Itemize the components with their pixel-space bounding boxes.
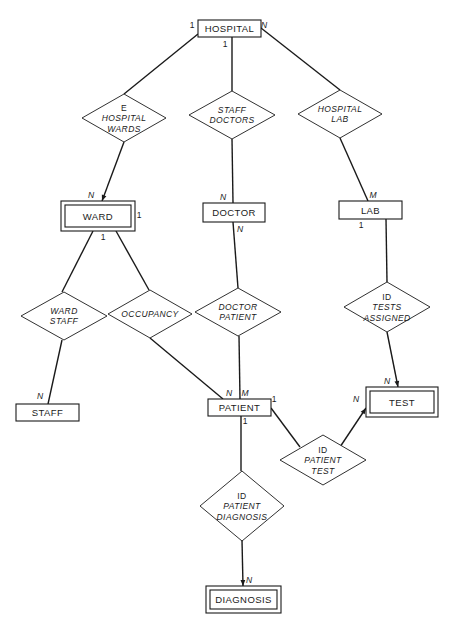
relationship-patient-diagnosis[interactable]: IDPATIENTDIAGNOSIS: [200, 471, 284, 541]
connector-line: [124, 34, 198, 94]
cardinality-label: 1: [272, 394, 277, 404]
entity-label: STAFF: [32, 407, 63, 418]
cardinality-label: N: [237, 224, 244, 234]
relationship-label: PATIENT: [304, 455, 342, 465]
entity-diagnosis[interactable]: DIAGNOSIS: [206, 586, 281, 613]
entity-label: TEST: [389, 397, 415, 408]
cardinality-label: 1: [223, 39, 228, 49]
connector-line: [48, 340, 62, 404]
cardinality-label: N: [226, 388, 233, 398]
relationship-staff-doctors[interactable]: STAFFDOCTORS: [189, 91, 275, 139]
relationship-label: ID: [318, 445, 327, 455]
entity-hospital[interactable]: HOSPITAL: [198, 20, 261, 37]
entity-label: HOSPITAL: [205, 23, 254, 34]
arrowhead-icon: [240, 580, 245, 586]
relationship-label: HOSPITAL: [102, 113, 147, 123]
er-diagram: EHOSPITALWARDSSTAFFDOCTORSHOSPITALLABWAR…: [0, 0, 456, 627]
relationship-occupancy[interactable]: OCCUPANCY: [108, 290, 192, 338]
connector-line: [62, 231, 93, 292]
relationship-tests-assigned[interactable]: IDTESTSASSIGNED: [344, 282, 430, 332]
relationship-label: STAFF: [50, 316, 79, 326]
entity-label: WARD: [83, 211, 113, 222]
connector-line: [340, 138, 368, 201]
relationship-label: DOCTOR: [218, 302, 257, 312]
relationship-label: TESTS: [372, 302, 401, 312]
relationship-label: HOSPITAL: [318, 104, 363, 114]
relationship-patient-test[interactable]: IDPATIENTTEST: [280, 435, 366, 485]
connector-line: [242, 540, 243, 586]
relationship-label: DOCTORS: [209, 115, 254, 125]
connector-line: [239, 336, 240, 399]
relationship-label: STAFF: [218, 105, 247, 115]
relationship-label: ASSIGNED: [362, 313, 410, 323]
entity-label: DOCTOR: [212, 207, 255, 218]
relationship-ward-staff[interactable]: WARDSTAFF: [21, 292, 107, 340]
connector-line: [386, 219, 387, 282]
cardinality-label: N: [261, 20, 268, 30]
relationship-label: WARD: [50, 306, 77, 316]
cardinality-label: 1: [101, 232, 106, 242]
entity-doctor[interactable]: DOCTOR: [203, 203, 265, 222]
relationship-label: ID: [237, 491, 246, 501]
connector-line: [150, 338, 223, 399]
arrowhead-icon: [361, 408, 366, 414]
connector-line: [261, 28, 340, 90]
cardinality-label: M: [369, 190, 377, 200]
relationship-diamonds: EHOSPITALWARDSSTAFFDOCTORSHOSPITALLABWAR…: [21, 90, 430, 541]
relationship-label: ID: [382, 292, 391, 302]
cardinality-label: N: [88, 190, 95, 200]
connector-line: [340, 408, 366, 447]
entity-label: PATIENT: [219, 402, 261, 413]
cardinality-label: 1: [243, 416, 248, 426]
cardinality-label: N: [37, 391, 44, 401]
relationship-hospital-wards[interactable]: EHOSPITALWARDS: [82, 94, 166, 142]
relationship-label: LAB: [331, 114, 348, 124]
relationship-label: PATIENT: [219, 312, 257, 322]
connector-line: [102, 142, 124, 201]
cardinality-label: N: [220, 192, 227, 202]
entity-ward[interactable]: WARD: [61, 201, 135, 231]
cardinality-label: N: [384, 376, 391, 386]
connector-line: [232, 139, 233, 203]
cardinality-label: 1: [359, 220, 364, 230]
entity-lab[interactable]: LAB: [339, 201, 402, 219]
relationship-label: E: [121, 103, 127, 113]
relationship-hospital-lab[interactable]: HOSPITALLAB: [298, 90, 382, 138]
entity-test[interactable]: TEST: [366, 387, 438, 417]
entity-label: DIAGNOSIS: [215, 594, 271, 605]
arrowhead-icon: [102, 195, 106, 201]
entity-label: LAB: [361, 205, 380, 216]
cardinality-label: 1: [137, 210, 142, 220]
cardinality-label: M: [241, 388, 249, 398]
relationship-label: TEST: [311, 466, 335, 476]
connector-line: [116, 231, 149, 290]
entity-patient[interactable]: PATIENT: [208, 399, 271, 416]
relationship-label: DIAGNOSIS: [217, 512, 268, 522]
relationship-label: OCCUPANCY: [121, 309, 179, 319]
relationship-label: PATIENT: [223, 501, 261, 511]
relationship-doctor-patient[interactable]: DOCTORPATIENT: [195, 288, 281, 336]
cardinality-label: N: [353, 394, 360, 404]
entity-staff[interactable]: STAFF: [16, 404, 79, 421]
relationship-label: WARDS: [107, 124, 141, 134]
connector-line: [271, 408, 300, 447]
cardinality-label: 1: [190, 20, 195, 30]
cardinality-label: N: [246, 575, 253, 585]
